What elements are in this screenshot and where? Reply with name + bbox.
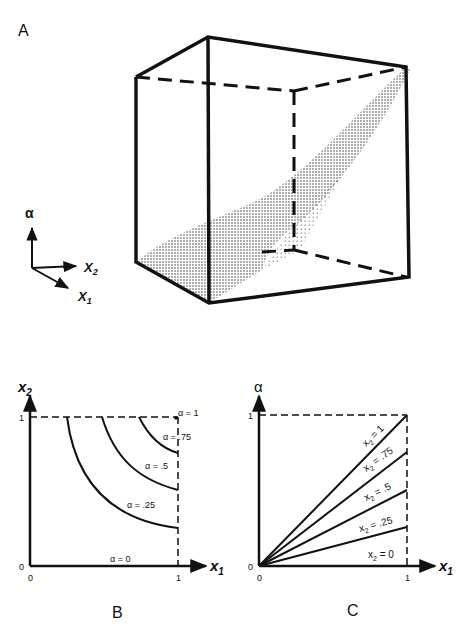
contour-label-0: α = 0 — [110, 554, 130, 564]
svg-text:X1: X1 — [77, 289, 92, 306]
svg-text:1: 1 — [248, 411, 253, 421]
svg-text:0: 0 — [28, 573, 33, 583]
line-label-0: x2 = 0 — [368, 549, 394, 562]
svg-text:1: 1 — [405, 573, 410, 583]
contour-label-1: α = 1 — [178, 408, 198, 418]
c-y-axis-label: α — [254, 378, 263, 395]
svg-text:0: 0 — [19, 562, 24, 572]
panel-c-plot: α x1 1 0 0 1 x2 = 1 x2 = .75 x2 = .5 x2 … — [248, 378, 453, 583]
svg-text:1: 1 — [176, 573, 181, 583]
contour-label-075: α = .75 — [163, 432, 191, 442]
line-label-1: x2 = 1 — [360, 422, 388, 450]
contour-label-05: α = .5 — [145, 461, 168, 471]
contour-label-025: α = .25 — [127, 500, 155, 510]
line-label-075: x2 = .75 — [361, 444, 397, 475]
svg-text:0: 0 — [248, 562, 253, 572]
svg-text:0: 0 — [257, 573, 262, 583]
axes-legend: α X2 X1 — [25, 205, 98, 306]
alpha-axis-label: α — [25, 205, 34, 221]
svg-text:x1: x1 — [438, 557, 453, 577]
svg-text:X2: X2 — [83, 260, 98, 277]
svg-text:x2: x2 — [17, 378, 32, 398]
svg-text:x1: x1 — [209, 557, 224, 577]
svg-text:1: 1 — [19, 413, 24, 423]
cube-diagram — [136, 37, 410, 303]
figure: α X2 X1 x2 x1 1 0 0 1 α = 1 α = .75 α = … — [0, 0, 475, 639]
panel-b-plot: x2 x1 1 0 0 1 α = 1 α = .75 α = .5 α = .… — [17, 378, 224, 583]
